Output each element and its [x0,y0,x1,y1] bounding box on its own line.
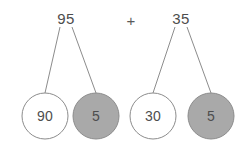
part-label-5-left: 5 [92,108,100,124]
total-number-left: 95 [57,10,75,27]
branch-line-left-bond-right [72,27,96,93]
part-label-90: 90 [37,108,53,124]
diagram-canvas [0,0,250,148]
plus-operator: + [127,12,136,29]
branch-line-right-bond-left [153,27,175,93]
part-label-30: 30 [145,108,161,124]
number-bond-diagram: 95 + 35 90 5 30 5 [0,0,250,148]
branch-line-left-bond-left [45,27,60,93]
branch-lines-group [45,27,211,93]
branch-line-right-bond-right [187,27,211,93]
total-number-right: 35 [172,10,190,27]
part-label-5-right: 5 [207,108,215,124]
part-circles-group [22,93,234,139]
